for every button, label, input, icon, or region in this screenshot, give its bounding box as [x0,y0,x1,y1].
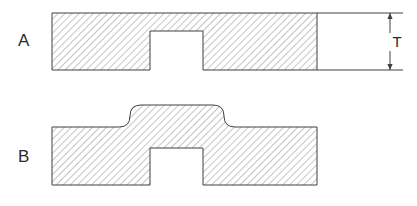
view-b-group: B [18,105,317,185]
view-a-hatch-fill [52,13,317,70]
dimension-arrow-bottom-icon [387,64,392,70]
thickness-label: T [392,33,401,50]
cross-section-diagram: A T B [0,0,417,206]
view-a-group: A [18,13,317,70]
view-b-hatch-fill [52,105,317,185]
figure-root: A T B [0,0,417,206]
thickness-dimension-group: T [317,13,403,70]
view-b-label: B [18,147,30,166]
dimension-arrow-top-icon [387,13,392,19]
view-a-label: A [18,31,30,50]
